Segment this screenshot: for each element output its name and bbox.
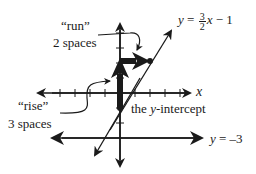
eq-rest: − 1: [212, 12, 232, 27]
eq-fraction: 32: [199, 12, 206, 31]
x-axis: [38, 89, 190, 97]
rise-quote: “rise”: [18, 98, 48, 113]
rise-description: 3 spaces: [8, 117, 52, 130]
diagram-stage: “run” 2 spaces “rise” 3 spaces x the y-i…: [0, 0, 256, 174]
horizontal-line-equation: y = –3: [210, 132, 243, 145]
run-endpoint-point: [147, 58, 153, 64]
y-intercept-label: the y-intercept: [131, 102, 206, 115]
rise-label: “rise”: [18, 99, 48, 112]
rise-callout-leader: [60, 81, 110, 113]
eq-denominator: 2: [199, 22, 206, 31]
y-intercept-point: [117, 105, 123, 111]
eq-equals: =: [184, 12, 198, 27]
run-quote: “run”: [61, 18, 90, 33]
sloped-line-equation: y = 32x − 1: [178, 12, 233, 31]
horiz-eq-rest: = –3: [216, 131, 243, 146]
x-axis-label-text: x: [196, 84, 202, 99]
x-axis-label: x: [196, 85, 202, 99]
run-desc-text: 2 spaces: [53, 35, 97, 50]
y-intercept-prefix: the: [131, 101, 150, 116]
run-callout-leader: [98, 33, 140, 50]
rise-desc-text: 3 spaces: [8, 116, 52, 131]
run-label: “run”: [61, 19, 90, 32]
run-arrow: [120, 52, 150, 70]
run-description: 2 spaces: [53, 36, 97, 49]
y-intercept-suffix: -intercept: [156, 101, 206, 116]
